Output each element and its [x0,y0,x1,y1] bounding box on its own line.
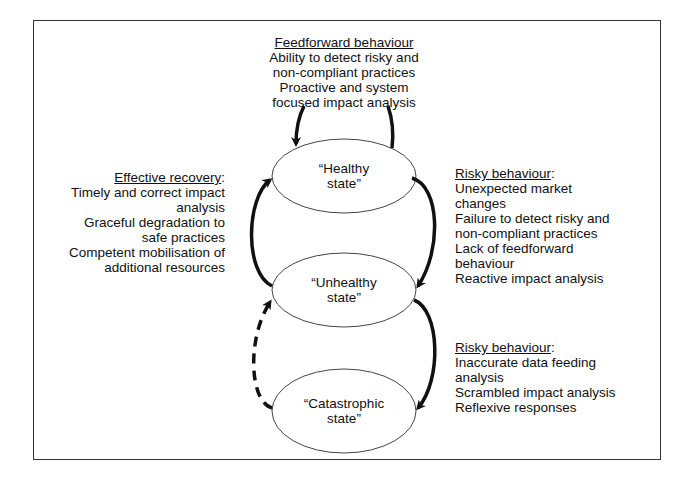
state-label-line: “Healthy [272,161,416,176]
risky-behaviour-block-2: Risky behaviour: Inaccurate data feeding… [455,340,665,415]
healthy-state-label: “Healthy state” [272,161,416,191]
feedforward-behaviour-block: Feedforward behaviour Ability to detect … [234,35,454,110]
heading-colon: : [551,166,555,181]
effective-recovery-block: Effective recovery: Timely and correct i… [20,170,225,275]
unhealthy-to-healthy-arrow [252,180,273,286]
risky-line: Lack of feedforward [455,241,665,256]
feedforward-line: Ability to detect risky and [234,50,454,65]
recovery-line: additional resources [20,260,225,275]
heading-colon: : [221,170,225,185]
state-label-line: state” [272,411,416,426]
feedforward-line: non-compliant practices [234,65,454,80]
catastrophic-to-unhealthy-dashed-arrow [254,302,272,408]
state-label-line: “Unhealthy [272,275,416,290]
risky-line: changes [455,196,665,211]
risky-behaviour-block-1: Risky behaviour: Unexpected market chang… [455,166,665,286]
risky-line: Reactive impact analysis [455,271,665,286]
feedforward-loop-arrow [388,106,393,148]
risky-behaviour-heading: Risky behaviour [455,340,551,355]
recovery-line: Timely and correct impact [20,185,225,200]
recovery-line: Graceful degradation to [20,215,225,230]
risky-line: analysis [455,370,665,385]
risky-line: Inaccurate data feeding [455,355,665,370]
risky-line: Failure to detect risky and [455,211,665,226]
risky-line: Unexpected market [455,181,665,196]
unhealthy-to-catastrophic-arrow [414,300,435,408]
risky-line: Scrambled impact analysis [455,385,665,400]
heading-colon: : [551,340,555,355]
state-label-line: state” [272,176,416,191]
catastrophic-state-label: “Catastrophic state” [272,396,416,426]
feedforward-line: focused impact analysis [234,95,454,110]
risky-line: behaviour [455,256,665,271]
feedforward-line: Proactive and system [234,80,454,95]
effective-recovery-heading: Effective recovery [114,170,221,185]
recovery-line: Competent mobilisation of [20,245,225,260]
feedforward-entry-arrow [296,106,304,144]
risky-line: Reflexive responses [455,400,665,415]
risky-line: non-compliant practices [455,226,665,241]
state-label-line: state” [272,290,416,305]
healthy-to-unhealthy-arrow [412,178,435,286]
unhealthy-state-label: “Unhealthy state” [272,275,416,305]
risky-behaviour-heading: Risky behaviour [455,166,551,181]
recovery-line: safe practices [20,230,225,245]
state-label-line: “Catastrophic [272,396,416,411]
feedforward-heading: Feedforward behaviour [234,35,454,50]
recovery-line: analysis [20,200,225,215]
